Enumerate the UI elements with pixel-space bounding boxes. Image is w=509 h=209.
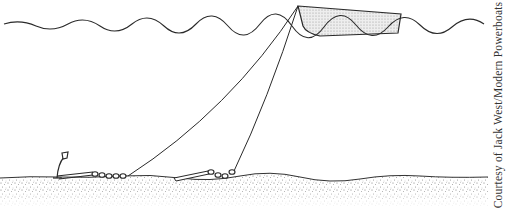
rode-to-primary-anchor <box>128 6 298 176</box>
credit-text: Courtesy of Jack West/Modern Powerboats <box>492 1 504 208</box>
rode-to-secondary-anchor <box>234 6 298 171</box>
boat-hull <box>298 6 401 36</box>
primary-anchor <box>53 152 93 179</box>
photo-credit: Courtesy of Jack West/Modern Powerboats <box>488 0 508 209</box>
wavy-water-line <box>4 14 484 38</box>
secondary-anchor-chain <box>208 170 235 179</box>
anchoring-illustration <box>0 0 509 209</box>
sandy-seabed <box>0 173 488 208</box>
